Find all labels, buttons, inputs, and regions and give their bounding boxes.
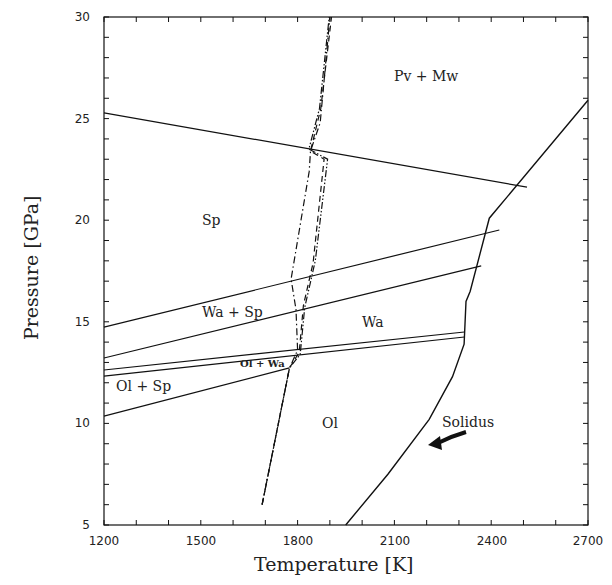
y-tick-labels: 5 10 15 20 25 30 bbox=[75, 10, 90, 532]
x-axis-title: Temperature [K] bbox=[254, 553, 414, 575]
solidus-line bbox=[346, 100, 588, 525]
y-axis-title: Pressure [GPa] bbox=[20, 196, 42, 340]
region-label-ol-sp: Ol + Sp bbox=[116, 378, 171, 394]
region-label-ol: Ol bbox=[322, 415, 338, 431]
x-tick-labels: 1200 1500 1800 2100 2400 2700 bbox=[89, 534, 604, 548]
region-label-wa-sp: Wa + Sp bbox=[202, 304, 263, 320]
plot-frame bbox=[104, 17, 588, 525]
solidus-arrow-icon bbox=[428, 432, 466, 450]
solidus-label: Solidus bbox=[442, 414, 494, 430]
y-tick-10: 10 bbox=[75, 416, 90, 430]
region-label-wa: Wa bbox=[362, 314, 384, 330]
x-tick-2400: 2400 bbox=[477, 534, 508, 548]
x-tick-1800: 1800 bbox=[283, 534, 314, 548]
x-tick-1200: 1200 bbox=[89, 534, 120, 548]
y-tick-15: 15 bbox=[75, 315, 90, 329]
x-tick-1500: 1500 bbox=[186, 534, 217, 548]
x-tick-2100: 2100 bbox=[380, 534, 411, 548]
region-label-ol-wa: Ol + Wa bbox=[240, 358, 285, 369]
phase-boundary-line bbox=[104, 337, 464, 376]
y-tick-5: 5 bbox=[82, 518, 90, 532]
region-label-sp: Sp bbox=[202, 212, 221, 228]
adiabat-line bbox=[262, 17, 329, 505]
x-tick-2700: 2700 bbox=[573, 534, 604, 548]
region-label-pv-mw: Pv + Mw bbox=[394, 68, 458, 84]
y-tick-25: 25 bbox=[75, 112, 90, 126]
adiabat-line bbox=[262, 17, 330, 505]
phase-boundary-line bbox=[104, 230, 499, 327]
phase-diagram-chart: Pv + Mw Sp Wa + Sp Wa Ol + Wa Ol + Sp Ol… bbox=[0, 0, 612, 585]
generated-content bbox=[104, 17, 588, 525]
y-tick-30: 30 bbox=[75, 10, 90, 24]
phase-boundary-line bbox=[104, 266, 481, 358]
y-tick-20: 20 bbox=[75, 213, 90, 227]
